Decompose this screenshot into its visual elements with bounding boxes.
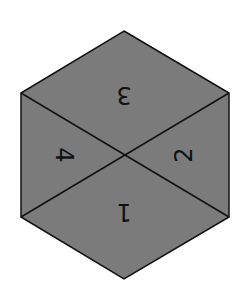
region-label-left: 4 bbox=[50, 147, 78, 162]
region-label-right: 2 bbox=[170, 147, 198, 162]
hexagon-diagram: 3 2 1 4 bbox=[0, 0, 243, 304]
region-label-bottom: 1 bbox=[116, 198, 131, 226]
region-label-top: 3 bbox=[116, 81, 131, 109]
